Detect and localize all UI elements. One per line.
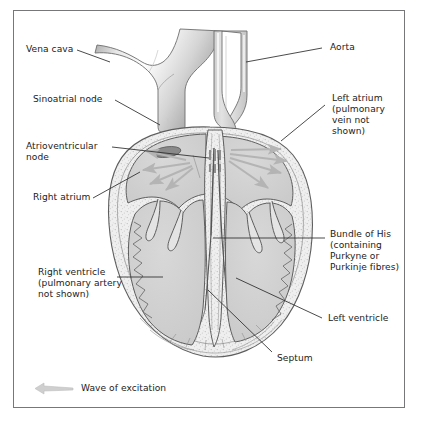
legend-label: Wave of excitation — [81, 383, 166, 394]
leader-aorta — [246, 48, 322, 62]
label-septum: Septum — [277, 353, 313, 364]
vena-cava-vessel — [95, 29, 222, 133]
label-aorta: Aorta — [330, 42, 355, 53]
heart-diagram-svg — [0, 0, 421, 421]
label-sinoatrial-node: Sinoatrial node — [33, 94, 102, 105]
figure-canvas: Vena cava Sinoatrial node Atrioventricul… — [0, 0, 421, 421]
right-ventricle-chamber — [128, 199, 205, 345]
leader-left-atrium — [281, 105, 325, 141]
label-right-atrium: Right atrium — [33, 192, 90, 203]
label-vena-cava: Vena cava — [26, 44, 73, 55]
aorta-vessel — [214, 31, 247, 142]
label-left-ventricle: Left ventricle — [328, 313, 388, 324]
wave-of-excitation-arrow-icon — [35, 383, 73, 394]
leader-sinoatrial-node — [115, 100, 160, 125]
